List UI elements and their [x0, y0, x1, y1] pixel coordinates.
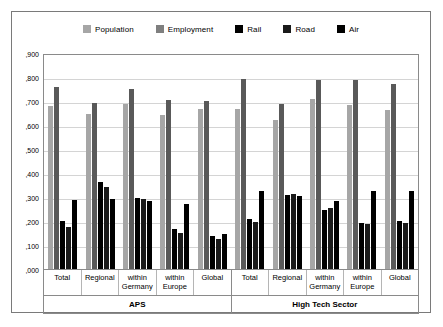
bar-air: [371, 191, 376, 269]
bar-population: [385, 110, 390, 269]
category-label-line: within: [315, 273, 334, 282]
legend-swatch-icon: [83, 25, 91, 33]
bar-road: [216, 239, 221, 269]
bar-group: [268, 55, 305, 269]
category-label-line: Global: [389, 273, 411, 282]
supergroup-label: High Tech Sector: [232, 296, 419, 313]
bar-employment: [204, 101, 209, 269]
bar-road: [291, 194, 296, 269]
category-label-line: Germany: [122, 282, 153, 291]
category-label-line: Europe: [163, 282, 187, 291]
bar-population: [123, 104, 128, 269]
bar-employment: [92, 103, 97, 269]
legend-entry: Population: [83, 25, 134, 34]
bar-population: [273, 120, 278, 269]
bar-group: [156, 55, 193, 269]
legend-label: Air: [349, 25, 359, 34]
bar-employment: [241, 79, 246, 269]
bar-road: [403, 223, 408, 269]
bar-rail: [247, 219, 252, 269]
bar-employment: [166, 100, 171, 269]
legend-swatch-icon: [337, 25, 345, 33]
legend-label: Road: [295, 25, 315, 34]
y-axis-tick-label: ,900: [25, 51, 39, 58]
bar-employment: [391, 84, 396, 269]
bar-rail: [172, 229, 177, 269]
bar-road: [253, 222, 258, 269]
category-label: Global: [382, 270, 419, 295]
bar-rail: [397, 221, 402, 269]
bar-rail: [60, 221, 65, 269]
legend-swatch-icon: [235, 25, 243, 33]
bar-population: [48, 106, 53, 269]
y-axis-tick-label: ,400: [25, 171, 39, 178]
legend-swatch-icon: [283, 25, 291, 33]
bar-employment: [316, 80, 321, 269]
category-label: Total: [44, 270, 82, 295]
legend-label: Employment: [168, 25, 213, 34]
bar-employment: [353, 80, 358, 269]
y-axis: ,900,800,700,600,500,400,300,200,100,000: [12, 54, 41, 270]
category-label: Regional: [269, 270, 307, 295]
bar-road: [66, 227, 71, 269]
bar-employment: [129, 89, 134, 269]
bar-road: [104, 187, 109, 269]
y-axis-tick-label: ,800: [25, 75, 39, 82]
category-label-line: Total: [54, 273, 70, 282]
category-label-line: within: [353, 273, 372, 282]
supergroup-row: APSHigh Tech Sector: [44, 296, 418, 313]
category-label: withinGermany: [119, 270, 157, 295]
category-label: withinEurope: [344, 270, 382, 295]
category-axis: TotalRegionalwithinGermanywithinEuropeGl…: [43, 270, 419, 314]
bar-group: [343, 55, 380, 269]
bar-group: [381, 55, 418, 269]
bar-air: [259, 191, 264, 269]
chart-legend: PopulationEmploymentRailRoadAir: [12, 20, 430, 38]
bar-air: [409, 191, 414, 269]
category-label-line: Regional: [272, 273, 302, 282]
y-axis-tick-label: ,000: [25, 267, 39, 274]
bar-air: [184, 204, 189, 269]
bar-air: [110, 199, 115, 269]
bar-employment: [54, 87, 59, 269]
bar-population: [347, 105, 352, 269]
bar-road: [365, 224, 370, 269]
y-axis-tick-label: ,700: [25, 99, 39, 106]
category-label-line: within: [128, 273, 147, 282]
chart-figure: PopulationEmploymentRailRoadAir ,900,800…: [11, 11, 431, 313]
bar-air: [147, 201, 152, 269]
y-axis-tick-label: ,200: [25, 219, 39, 226]
bar-road: [328, 208, 333, 269]
bar-group: [44, 55, 81, 269]
bar-population: [86, 114, 91, 269]
legend-entry: Rail: [235, 25, 261, 34]
bar-road: [141, 199, 146, 269]
bar-group: [306, 55, 343, 269]
bar-rail: [210, 236, 215, 269]
category-label: Regional: [82, 270, 120, 295]
bar-group: [231, 55, 268, 269]
bar-rail: [359, 223, 364, 269]
category-label-line: Germany: [309, 282, 340, 291]
legend-label: Rail: [247, 25, 261, 34]
bar-rail: [285, 195, 290, 269]
legend-entry: Employment: [156, 25, 213, 34]
bar-group: [194, 55, 231, 269]
bar-air: [334, 201, 339, 269]
bar-air: [72, 200, 77, 269]
category-label-line: Total: [242, 273, 258, 282]
category-row: TotalRegionalwithinGermanywithinEuropeGl…: [44, 270, 418, 296]
bar-population: [235, 109, 240, 269]
category-label-line: Europe: [350, 282, 374, 291]
legend-swatch-icon: [156, 25, 164, 33]
bar-road: [178, 233, 183, 269]
bar-group: [81, 55, 118, 269]
category-label: Global: [194, 270, 232, 295]
bar-population: [310, 99, 315, 269]
bar-employment: [279, 104, 284, 269]
y-axis-tick-label: ,600: [25, 123, 39, 130]
category-label: Total: [232, 270, 270, 295]
bar-population: [160, 115, 165, 269]
legend-label: Population: [95, 25, 134, 34]
y-axis-tick-label: ,300: [25, 195, 39, 202]
